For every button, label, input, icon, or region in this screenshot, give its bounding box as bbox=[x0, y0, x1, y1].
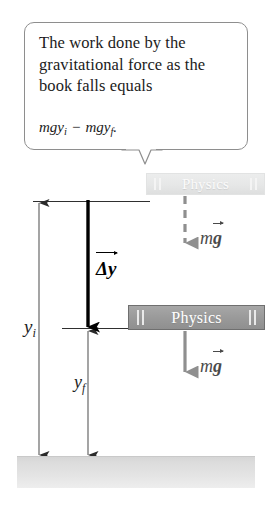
ground-surface bbox=[17, 456, 255, 488]
label-force-mass-final: m bbox=[200, 356, 213, 376]
label-initial-height-subscript: i bbox=[32, 326, 35, 340]
label-force-mass-initial: m bbox=[200, 228, 213, 248]
label-final-height-subscript: f bbox=[82, 381, 85, 395]
physics-figure: The work done by the gravitational force… bbox=[0, 0, 272, 506]
diagram-vector-layer bbox=[0, 0, 272, 506]
label-displacement-vector: Δy bbox=[96, 258, 116, 280]
label-force-vector-final: mg bbox=[200, 356, 222, 377]
callout-tail-icon bbox=[120, 142, 164, 168]
vector-arrow-overbar-icon bbox=[96, 252, 117, 253]
label-initial-height: yi bbox=[24, 316, 36, 341]
vector-arrow-overbar-icon bbox=[213, 223, 223, 224]
vector-arrow-overbar-icon bbox=[213, 351, 223, 352]
label-final-height: yf bbox=[74, 372, 85, 396]
label-final-height-base: y bbox=[74, 372, 82, 392]
label-force-gravity-final: g bbox=[213, 356, 222, 376]
label-force-gravity-initial: g bbox=[213, 228, 222, 248]
label-displacement-base: Δy bbox=[96, 258, 116, 279]
label-force-vector-initial: mg bbox=[200, 228, 222, 249]
